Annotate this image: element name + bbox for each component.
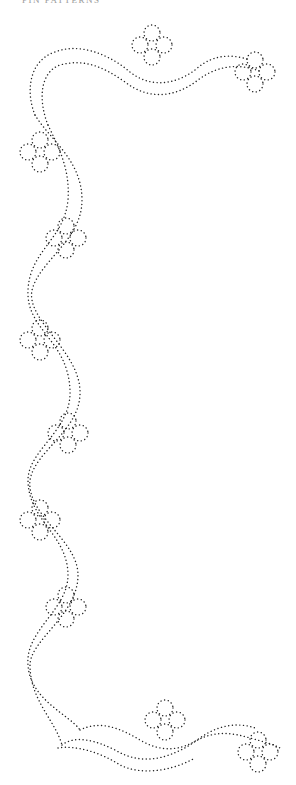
top-ribbon [30, 49, 262, 125]
flower-right-3 [46, 587, 86, 627]
dotted-border-pattern [0, 0, 296, 785]
flower-right-1 [46, 218, 86, 258]
bottom-ribbon [58, 725, 280, 771]
flower-top-right [235, 52, 275, 92]
flower-bottom-right [238, 732, 278, 772]
flower-left-3 [20, 500, 60, 540]
flower-left-2 [20, 320, 60, 360]
left-ribbon [28, 115, 82, 745]
flower-bottom-center [145, 700, 185, 740]
flower-top-center [132, 25, 172, 65]
